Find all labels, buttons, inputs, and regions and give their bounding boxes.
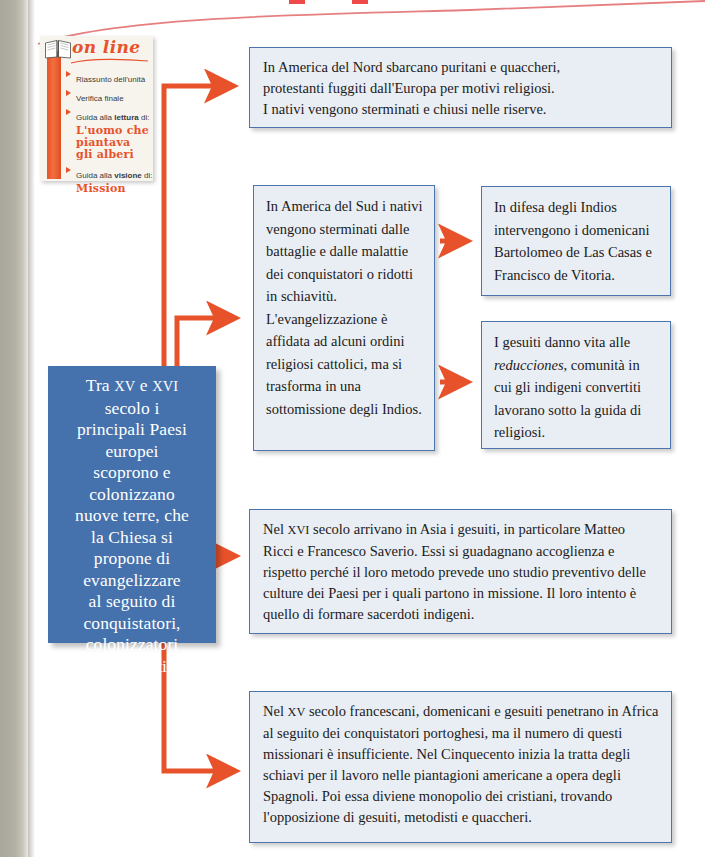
online-item-3-label: Guida alla lettura di: — [76, 113, 149, 122]
edge-root-to-south — [177, 318, 234, 366]
online-panel-list: Riassunto dell'unità Verifica finale Gui… — [66, 68, 152, 195]
online-item-4-label: Guida alla visione di: — [76, 171, 153, 180]
box-north-line-1: In America del Nord sbarcano puritani e … — [263, 59, 560, 75]
open-book-icon — [44, 38, 72, 60]
online-list-item-2[interactable]: Verifica finale — [66, 87, 152, 105]
box-defesa-indios-text: In difesa degli Indios intervengono i do… — [482, 187, 670, 294]
flowchart-box-south-america: In America del Sud i nativi vengono ster… — [253, 185, 435, 451]
flowchart-box-defesa-indios: In difesa degli Indios intervengono i do… — [481, 186, 671, 296]
online-item-4-bold: visione — [114, 171, 142, 180]
box-north-line-2: protestanti fuggiti dall'Europa per moti… — [263, 80, 555, 96]
edge-root-to-north — [164, 86, 232, 366]
online-panel[interactable]: on line Riassunto dell'unità Verifica fi… — [40, 36, 153, 181]
flowchart-root-node: Tra XV e XVI secolo iprincipali Paesieur… — [48, 366, 216, 643]
box-gesuiti-pre: I gesuiti danno vita alle — [494, 334, 630, 350]
box-africa-text: Nel XV secolo francescani, domenicani e … — [250, 692, 671, 836]
online-item-4-prefix: Guida alla — [76, 171, 114, 180]
online-panel-spine — [47, 51, 61, 179]
triangle-bullet-icon — [66, 71, 71, 77]
page-canvas: on line Riassunto dell'unità Verifica fi… — [0, 0, 705, 857]
online-list-item-3[interactable]: Guida alla lettura di: — [66, 106, 152, 124]
roman-numeral-xvi: XVI — [288, 523, 310, 537]
roman-numeral-xv: XV — [288, 705, 306, 719]
online-item-2-label: Verifica finale — [76, 94, 124, 103]
flowchart-box-north-america: In America del Nord sbarcano puritani e … — [249, 47, 672, 128]
triangle-bullet-icon — [66, 90, 71, 96]
page-edge-shadow — [28, 0, 35, 857]
online-item-3-bold: lettura — [114, 113, 138, 122]
flowchart-box-asia: Nel XVI secolo arrivano in Asia i gesuit… — [249, 509, 672, 634]
box-gesuiti-text: I gesuiti danno vita alle reducciones, c… — [482, 322, 670, 452]
box-south-america-text: In America del Sud i nativi vengono ster… — [254, 186, 434, 428]
box-gesuiti-italic-term: reducciones — [494, 357, 564, 373]
roman-numeral-xvi: XVI — [152, 378, 178, 394]
box-asia-pre: Nel — [263, 521, 288, 537]
online-item-3-sub-line-3: gli alberi — [66, 149, 152, 161]
triangle-bullet-icon — [66, 167, 71, 173]
online-item-3-suffix: di: — [139, 113, 150, 122]
box-north-line-3: I nativi vengono sterminati e chiusi nel… — [263, 101, 546, 117]
box-africa-post: secolo francescani, domenicani e gesuiti… — [263, 703, 658, 825]
box-asia-text: Nel XVI secolo arrivano in Asia i gesuit… — [250, 510, 671, 633]
flowchart-box-africa: Nel XV secolo francescani, domenicani e … — [249, 691, 672, 843]
box-north-america-text: In America del Nord sbarcano puritani e … — [250, 48, 671, 128]
roman-numeral-xv: XV — [114, 378, 135, 394]
online-item-1-label: Riassunto dell'unità — [76, 75, 145, 84]
flowchart-box-gesuiti-reducciones: I gesuiti danno vita alle reducciones, c… — [481, 321, 671, 449]
box-asia-post: secolo arrivano in Asia i gesuiti, in pa… — [263, 521, 646, 622]
box-africa-pre: Nel — [263, 703, 288, 719]
online-title-underline — [70, 58, 150, 65]
edge-root-to-africa — [164, 643, 234, 771]
triangle-bullet-icon — [66, 109, 71, 115]
page-edge-strip — [0, 0, 28, 857]
online-item-4-sub: Mission — [66, 183, 152, 195]
online-item-3-prefix: Guida alla — [76, 113, 114, 122]
online-list-item-1[interactable]: Riassunto dell'unità — [66, 68, 152, 86]
online-list-item-4[interactable]: Guida alla visione di: — [66, 164, 152, 182]
online-panel-title: on line — [72, 38, 141, 57]
online-item-4-suffix: di: — [142, 171, 153, 180]
